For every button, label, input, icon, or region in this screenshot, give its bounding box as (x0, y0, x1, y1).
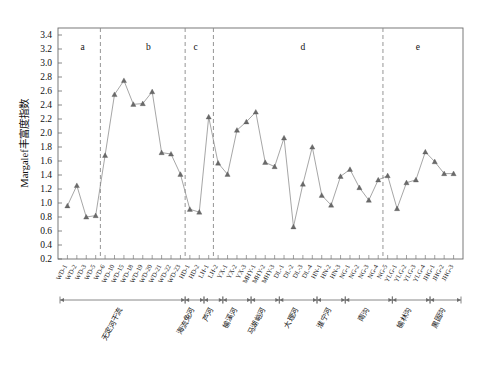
y-tick-label: 0.6 (40, 226, 52, 236)
chart-figure: 0.20.40.60.81.01.21.41.61.82.02.22.42.62… (0, 0, 484, 371)
y-tick-label: 0.2 (40, 254, 52, 264)
y-tick-label: 1.0 (40, 198, 52, 208)
y-tick-label: 2.8 (40, 72, 52, 82)
y-axis-tick-labels: 0.20.40.60.81.01.21.41.61.82.02.22.42.62… (40, 30, 52, 264)
y-tick-label: 3.2 (40, 44, 52, 54)
y-tick-label: 1.6 (40, 156, 52, 166)
chart-background (0, 0, 484, 371)
y-tick-label: 1.8 (40, 142, 52, 152)
group-letter: c (193, 42, 197, 52)
y-axis-title-text: Margalef丰富度指数 (18, 98, 30, 187)
y-tick-label: 2.2 (40, 114, 52, 124)
y-tick-label: 1.2 (40, 184, 52, 194)
y-tick-label: 3.4 (40, 30, 52, 40)
margalef-richness-index-chart: 0.20.40.60.81.01.21.41.61.82.02.22.42.62… (0, 0, 484, 371)
group-letter: b (146, 42, 151, 52)
y-tick-label: 2.4 (40, 100, 52, 110)
y-tick-label: 2.0 (40, 128, 52, 138)
y-tick-label: 2.6 (40, 86, 52, 96)
y-axis-title: Margalef丰富度指数 (18, 98, 30, 187)
y-tick-label: 3.0 (40, 58, 52, 68)
y-tick-label: 0.8 (40, 212, 52, 222)
y-tick-label: 0.4 (40, 240, 52, 250)
group-letter: e (416, 42, 420, 52)
y-tick-label: 1.4 (40, 170, 52, 180)
group-letter: d (301, 42, 306, 52)
